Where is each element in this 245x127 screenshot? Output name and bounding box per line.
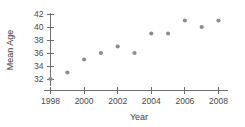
y-tick-label: 32: [34, 74, 44, 84]
x-tick-label: 2002: [108, 96, 127, 106]
data-point: [166, 31, 170, 35]
x-axis: 199820002002200420062008 Year: [41, 87, 228, 122]
y-tick-labels: 323436384042: [34, 9, 44, 84]
x-axis-title: Year: [130, 112, 148, 122]
x-tick-label: 2006: [175, 96, 194, 106]
data-point: [99, 51, 103, 55]
data-point: [48, 77, 52, 81]
x-tick-labels: 199820002002200420062008: [41, 96, 228, 106]
data-point: [65, 70, 69, 74]
y-axis-title: Mean Age: [5, 30, 15, 71]
x-tick-label: 2008: [209, 96, 228, 106]
y-axis: 323436384042 Mean Age: [5, 9, 54, 86]
data-point: [216, 18, 220, 22]
x-tick-label: 2004: [142, 96, 161, 106]
data-point: [132, 51, 136, 55]
data-point-series: [48, 18, 220, 81]
x-tick-label: 1998: [41, 96, 60, 106]
y-tick-label: 42: [34, 9, 44, 19]
y-tick-label: 34: [34, 61, 44, 71]
data-point: [183, 18, 187, 22]
scatter-chart: 323436384042 Mean Age 199820002002200420…: [0, 0, 245, 127]
data-point: [82, 57, 86, 61]
data-point: [149, 31, 153, 35]
x-tick-label: 2000: [75, 96, 94, 106]
data-point: [116, 44, 120, 48]
y-tick-label: 36: [34, 48, 44, 58]
plot-area: 323436384042 Mean Age 199820002002200420…: [0, 0, 245, 127]
y-tick-label: 40: [34, 22, 44, 32]
data-point: [200, 25, 204, 29]
y-tick-label: 38: [34, 35, 44, 45]
